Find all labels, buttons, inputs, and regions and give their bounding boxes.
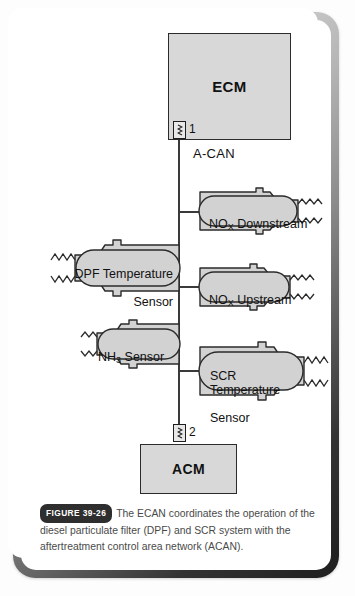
diagram-canvas: ECM 1 A-CAN NOX Downstream (21, 20, 331, 570)
stub-scr-temperature (178, 370, 200, 372)
sensor-dpf-temperature[interactable]: DPF Temperature Sensor (45, 240, 179, 296)
connector-1-number: 1 (189, 121, 196, 137)
sensor-nh3-label: NH3 Sensor (98, 336, 164, 365)
sensor-scr-temperature-label: SCR Temperature Sensor (210, 355, 306, 425)
connector-1-icon[interactable] (173, 121, 186, 139)
module-acm-label: ACM (172, 461, 205, 477)
sensor-nox-downstream[interactable]: NOX Downstream (200, 188, 331, 234)
figure-caption: FIGURE 39-26The ECAN coordinates the ope… (40, 504, 317, 554)
sensor-nh3[interactable]: NH3 Sensor (79, 320, 179, 368)
figure-page: ECM 1 A-CAN NOX Downstream (0, 0, 355, 596)
module-acm[interactable]: ACM (140, 444, 237, 494)
sensor-nox-upstream[interactable]: NOX Upstream (200, 264, 326, 310)
stub-nox-downstream (178, 211, 200, 213)
module-ecm-label: ECM (212, 78, 247, 95)
stub-nox-upstream (178, 286, 200, 288)
connector-2-icon[interactable] (173, 424, 186, 442)
sensor-dpf-temperature-label: DPF Temperature Sensor (71, 253, 173, 309)
a-can-label: A-CAN (193, 146, 235, 161)
figure-number-badge: FIGURE 39-26 (40, 504, 112, 523)
sensor-nox-downstream-label: NOX Downstream (209, 203, 307, 232)
connector-2-number: 2 (189, 424, 196, 440)
sensor-scr-temperature[interactable]: SCR Temperature Sensor (200, 342, 331, 400)
dpf-label-line2: Sensor (133, 295, 173, 309)
scr-label-line1: SCR Temperature (210, 369, 280, 397)
dpf-label-line1: DPF Temperature (75, 267, 173, 281)
sensor-nox-upstream-label: NOX Upstream (209, 279, 291, 308)
scr-label-line2: Sensor (210, 411, 250, 425)
module-ecm[interactable]: ECM (168, 33, 291, 140)
